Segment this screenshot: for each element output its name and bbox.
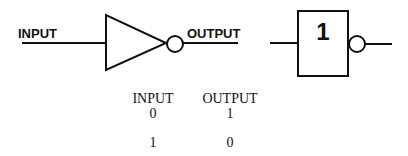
truth-row-1-input: 0 xyxy=(126,107,180,121)
truth-row-1-output: 1 xyxy=(200,107,260,121)
truth-row-2-output: 0 xyxy=(200,136,260,150)
truth-row-2-input: 1 xyxy=(126,136,180,150)
truth-header-input: INPUT xyxy=(126,92,180,106)
truth-header-output: OUTPUT xyxy=(200,92,260,106)
truth-table: INPUT OUTPUT 0 1 1 0 xyxy=(0,0,408,156)
